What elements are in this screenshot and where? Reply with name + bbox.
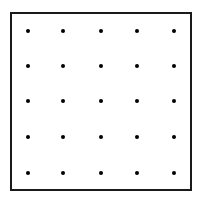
- grid-dot: [135, 171, 139, 175]
- grid-dot: [26, 171, 30, 175]
- grid-dot: [172, 29, 176, 33]
- grid-dot: [135, 135, 139, 139]
- grid-dot: [135, 29, 139, 33]
- grid-dot: [172, 171, 176, 175]
- grid-dot: [26, 135, 30, 139]
- grid-dot: [61, 135, 65, 139]
- grid-dot: [172, 99, 176, 103]
- grid-dot: [61, 29, 65, 33]
- grid-dot: [99, 135, 103, 139]
- grid-dot: [99, 64, 103, 68]
- grid-dot: [26, 99, 30, 103]
- grid-dot: [172, 64, 176, 68]
- grid-dot: [61, 171, 65, 175]
- grid-dot: [135, 64, 139, 68]
- grid-dot: [61, 64, 65, 68]
- grid-dot: [172, 135, 176, 139]
- grid-dot: [26, 64, 30, 68]
- grid-dot: [99, 29, 103, 33]
- grid-dot: [99, 99, 103, 103]
- grid-dot: [26, 29, 30, 33]
- grid-dot: [61, 99, 65, 103]
- grid-dot: [135, 99, 139, 103]
- grid-dot: [99, 171, 103, 175]
